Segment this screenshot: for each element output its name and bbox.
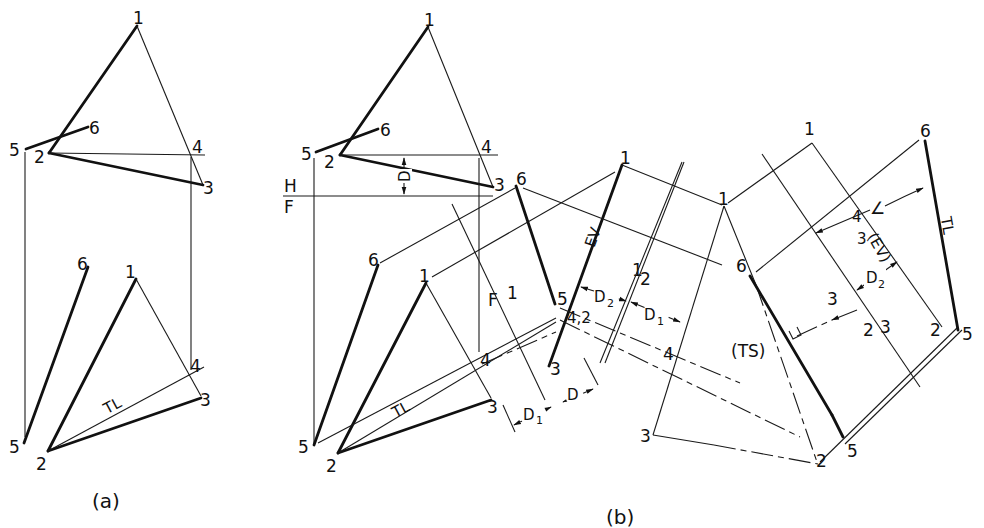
label-point: 6: [77, 254, 88, 274]
label-point: 6: [89, 118, 100, 138]
label-point: 1: [424, 10, 435, 30]
label-point: 5: [298, 437, 309, 457]
aux-view-1: 1 6 5 4,2 3 EV: [516, 148, 800, 437]
label-fold-f: F: [488, 290, 498, 310]
label-dimension-d: D: [567, 386, 579, 404]
label-fold-2: 2: [640, 269, 651, 289]
label-true-length: TL: [100, 393, 125, 418]
label-point: 3: [200, 390, 211, 410]
label-point: 2: [36, 454, 47, 474]
part-a: 1 2 3 4 5 6 6 1 4 3 5 2 TL (a): [9, 8, 214, 513]
label-dimension-d: D: [396, 170, 414, 182]
label-dimension-d2-sub: 2: [878, 278, 885, 291]
caption-a: (a): [92, 489, 120, 513]
part-a-top-view: 1 2 3 4 5 6: [9, 8, 214, 437]
label-point: 4: [852, 208, 862, 226]
label-point: 2: [34, 147, 45, 167]
label-point: 4: [663, 344, 674, 364]
label-point: 3: [487, 397, 498, 417]
label-point: 2: [816, 451, 827, 471]
label-fold-h: H: [284, 176, 297, 196]
part-b-top-view: D 1 2 3 4 5 6: [301, 10, 505, 195]
caption-b: (b): [606, 505, 634, 528]
aux-view-2: 1 6 4 3 2 5 (TS): [640, 140, 962, 471]
label-point: 2: [326, 456, 337, 476]
label-point: 4: [192, 137, 203, 157]
label-true-shape: (TS): [731, 341, 765, 361]
label-true-length: TL: [937, 214, 958, 236]
label-dimension-d1: D: [644, 306, 656, 324]
label-point: 6: [516, 169, 527, 189]
label-point: 1: [620, 148, 631, 168]
label-point: 6: [736, 256, 747, 276]
label-point: 6: [380, 120, 391, 140]
label-point: 4,2: [567, 309, 591, 327]
label-point: 1: [419, 266, 430, 286]
descriptive-geometry-figure: 1 2 3 4 5 6 6 1 4 3 5 2 TL (a): [0, 0, 984, 528]
label-point: 4: [480, 350, 491, 370]
label-edge-view: EV: [581, 224, 605, 249]
label-point: 3: [203, 178, 214, 198]
label-dimension-d2-sub: 2: [607, 297, 614, 310]
label-point: 3: [827, 289, 838, 309]
label-angle: ∠: [870, 198, 885, 218]
label-point: 1: [125, 262, 136, 282]
part-a-front-view: 6 1 4 3 5 2 TL: [9, 254, 211, 474]
label-point: 1: [718, 189, 729, 209]
aux-view-3: 1 6 4 3 ∠ (EV) TL 3 2 3 2 5: [804, 119, 973, 344]
label-point: 3: [550, 359, 561, 379]
label-dimension-d2: D: [594, 288, 606, 306]
part-b: D 1 2 3 4 5 6 H F 6: [283, 10, 973, 528]
label-dimension-d1-sub: 1: [536, 414, 543, 427]
label-point: 6: [920, 121, 931, 141]
label-point: 5: [301, 144, 312, 164]
label-point: 5: [962, 324, 973, 344]
label-point: 1: [804, 119, 815, 139]
label-point: 3: [640, 426, 651, 446]
label-point: 3: [880, 317, 891, 337]
label-point: 5: [9, 437, 20, 457]
label-point: 4: [481, 137, 492, 157]
label-edge-view: (EV): [863, 229, 894, 265]
label-point: 5: [847, 441, 858, 461]
label-point: 3: [494, 175, 505, 195]
label-point: 2: [324, 152, 335, 172]
label-fold-f: F: [284, 197, 294, 217]
label-point: 5: [9, 140, 20, 160]
label-true-length: TL: [388, 397, 413, 422]
label-dimension-d1-sub: 1: [657, 315, 664, 328]
label-point: 6: [368, 250, 379, 270]
label-point: 1: [133, 8, 144, 28]
label-point: 5: [557, 289, 568, 309]
fold-line-1-2: 1 2 D 2 D 1: [581, 162, 684, 363]
label-point: 4: [190, 356, 201, 376]
label-dimension-d2: D: [866, 269, 878, 287]
label-fold-1: 1: [507, 283, 518, 303]
label-point: 2: [863, 320, 874, 340]
label-point: 2: [930, 320, 941, 340]
label-dimension-d1: D: [523, 406, 535, 424]
